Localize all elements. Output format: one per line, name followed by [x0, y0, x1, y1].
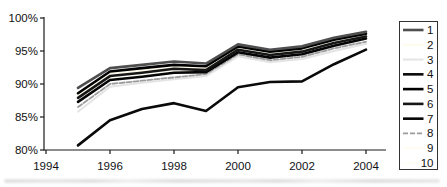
legend-label-1: 1 [427, 24, 433, 36]
legend-label-10: 10 [421, 157, 434, 169]
cropped-caption-remnant [4, 179, 440, 183]
chart-plot: 100%95%90%85%80%199419961998200020022004… [0, 0, 447, 187]
legend-label-5: 5 [427, 83, 433, 95]
legend-label-7: 7 [427, 113, 433, 125]
legend-label-2: 2 [427, 39, 433, 51]
y-tick-label-80: 80% [15, 144, 38, 156]
legend-label-3: 3 [427, 54, 433, 66]
legend-label-8: 8 [427, 127, 433, 139]
y-tick-label-90: 90% [15, 78, 38, 90]
x-tick-label-2004: 2004 [353, 160, 379, 172]
y-tick-label-85: 85% [15, 111, 38, 123]
legend-label-4: 4 [427, 68, 434, 80]
x-tick-label-2002: 2002 [289, 160, 315, 172]
legend-label-6: 6 [427, 98, 433, 110]
y-tick-label-100: 100% [9, 12, 38, 24]
line-chart-figure: 100%95%90%85%80%199419961998200020022004… [0, 0, 447, 187]
y-tick-label-95: 95% [15, 45, 38, 57]
x-tick-label-1994: 1994 [33, 160, 59, 172]
legend-label-9: 9 [427, 142, 433, 154]
x-tick-label-1998: 1998 [161, 160, 187, 172]
x-tick-label-2000: 2000 [225, 160, 251, 172]
x-tick-label-1996: 1996 [97, 160, 123, 172]
